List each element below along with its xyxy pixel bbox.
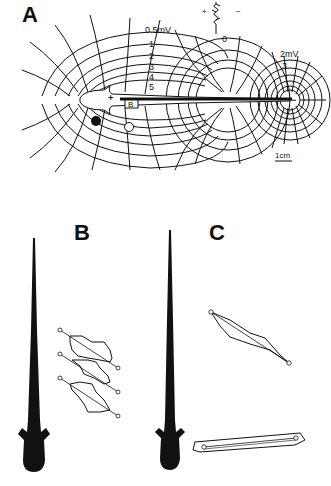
svg-text:B: B — [128, 100, 133, 109]
scale-bar: 1cm — [275, 151, 292, 161]
open-electrode-marker — [125, 123, 134, 132]
loop-trace — [209, 310, 291, 365]
iso-label-5: 5 — [149, 82, 154, 92]
head-plus-sign: + — [108, 93, 113, 103]
loop-trace — [58, 376, 120, 418]
waveform-plus-sign: + — [202, 7, 207, 16]
loop-trace — [58, 328, 120, 370]
svg-text:1cm: 1cm — [275, 151, 290, 160]
loop-trace — [193, 433, 305, 452]
iso-label-2mv: 2mV — [280, 49, 299, 59]
fish-silhouette-c — [155, 230, 185, 470]
iso-label-4: 4 — [149, 72, 154, 82]
panel-b: B — [18, 220, 120, 472]
tail-minus-sign: − — [291, 95, 296, 105]
iso-label-3: 3 — [149, 62, 154, 72]
filled-electrode-marker — [91, 116, 101, 126]
electrode-loops-c — [193, 310, 305, 452]
panel-a: A + − — [22, 2, 330, 172]
electrode-loops-b — [58, 328, 120, 418]
panel-c-label: C — [209, 220, 225, 245]
figure-canvas: A + − — [0, 0, 331, 486]
waveform-minus-sign: − — [236, 7, 241, 16]
region-box-b: B — [125, 100, 138, 109]
iso-label-2: 2 — [149, 51, 154, 61]
panel-b-label: B — [74, 220, 90, 245]
iso-label-0-5mv: 0.5mV — [145, 25, 171, 35]
iso-label-zero: 0 — [222, 34, 227, 44]
panel-c: C — [155, 220, 305, 470]
eod-waveform: + − — [202, 2, 241, 34]
current-lines — [22, 15, 326, 172]
iso-label-3-tail: 3 — [282, 61, 287, 71]
panel-a-label: A — [22, 2, 38, 27]
fish-silhouette-b — [18, 238, 50, 472]
iso-label-1: 1 — [149, 39, 154, 49]
